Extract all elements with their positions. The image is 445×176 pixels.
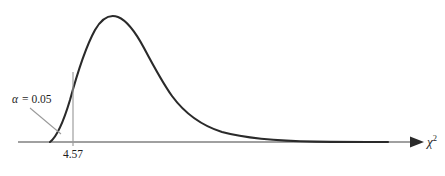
chi-square-distribution-figure: α= 0.05 4.57 χ2 (0, 0, 445, 176)
x-axis-label: χ2 (425, 133, 437, 149)
x-axis-arrowhead (410, 137, 424, 148)
alpha-symbol: α (12, 93, 19, 105)
chi-square-plot-svg: α= 0.05 4.57 χ2 (0, 0, 445, 176)
alpha-equation: = 0.05 (22, 93, 52, 105)
chi-square-density-curve (50, 16, 388, 142)
chi-exponent: 2 (433, 133, 437, 143)
alpha-leader-line (30, 108, 61, 134)
critical-value-tick-label: 4.57 (63, 148, 83, 160)
alpha-annotation-label: α= 0.05 (12, 93, 52, 105)
